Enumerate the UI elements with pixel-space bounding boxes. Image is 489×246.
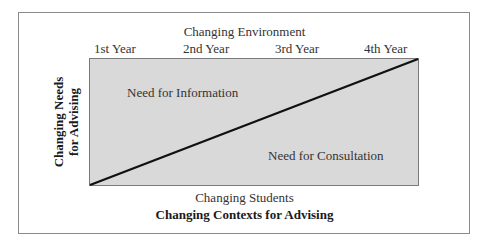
diagonal-line bbox=[89, 58, 419, 186]
left-axis-label: Changing Needs for Advising bbox=[51, 77, 81, 168]
left-axis-label-line1: Changing Needs bbox=[51, 77, 66, 168]
left-axis-label-line2: for Advising bbox=[66, 77, 81, 168]
year-label-2: 2nd Year bbox=[183, 41, 229, 57]
figure-title: Changing Contexts for Advising bbox=[0, 207, 489, 223]
region-consultation-label: Need for Consultation bbox=[268, 148, 384, 164]
year-label-4: 4th Year bbox=[364, 41, 407, 57]
region-information-label: Need for Information bbox=[127, 85, 238, 101]
year-label-1: 1st Year bbox=[94, 41, 136, 57]
bottom-axis-label: Changing Students bbox=[0, 190, 489, 206]
year-label-3: 3rd Year bbox=[275, 41, 319, 57]
top-axis-label: Changing Environment bbox=[0, 24, 489, 40]
